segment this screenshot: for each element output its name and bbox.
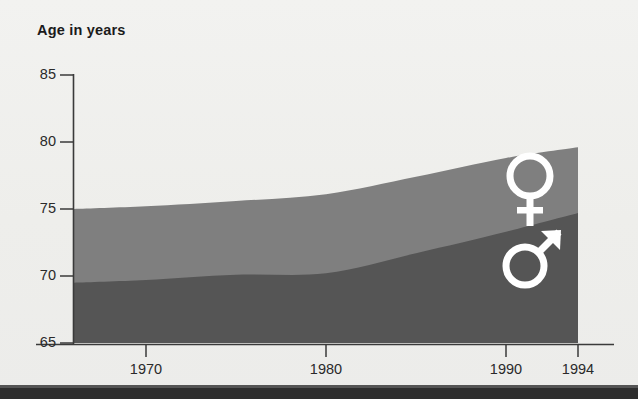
x-tick-label: 1990 xyxy=(474,361,538,377)
y-axis-ticks xyxy=(60,75,74,343)
area-chart xyxy=(0,0,638,399)
y-tick-label: 70 xyxy=(22,267,56,283)
y-tick-label: 80 xyxy=(22,133,56,149)
x-tick-label: 1994 xyxy=(546,361,610,377)
x-axis-ticks xyxy=(146,344,578,357)
footer-bar-highlight xyxy=(0,385,638,388)
y-tick-label: 85 xyxy=(22,66,56,82)
y-tick-label: 75 xyxy=(22,200,56,216)
footer-bar xyxy=(0,385,638,399)
x-tick-label: 1980 xyxy=(294,361,358,377)
y-tick-label: 65 xyxy=(22,334,56,350)
x-tick-label: 1970 xyxy=(114,361,178,377)
